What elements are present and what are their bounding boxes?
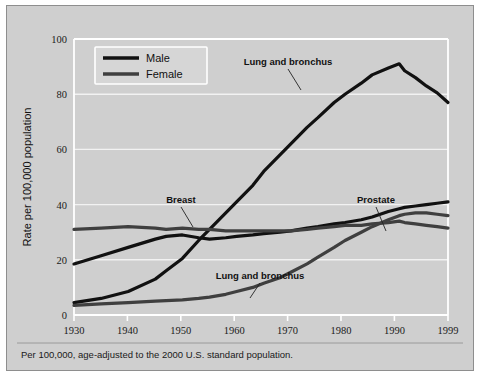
x-tick-label: 1950: [170, 325, 191, 336]
legend: Male Female: [95, 47, 207, 84]
y-tick-label: 20: [57, 255, 68, 266]
figure-root: 100 80 60 40 20 0 1930 1940 1950 1960 19…: [0, 0, 486, 382]
x-tick-label: 1970: [277, 325, 298, 336]
annotation-prostate: Prostate: [357, 194, 395, 205]
chart-svg: 100 80 60 40 20 0 1930 1940 1950 1960 19…: [7, 6, 473, 370]
x-tick-label: 1930: [64, 325, 85, 336]
y-axis-title: Rate per 100,000 population: [21, 108, 33, 247]
x-tick-label: 1999: [438, 325, 459, 336]
annotation-labels: Lung and bronchus Breast Prostate Lung a…: [166, 56, 395, 281]
series-line-male-lung-and-bronchus: [74, 64, 448, 303]
series-line-male-prostate: [74, 202, 448, 264]
legend-label-female: Female: [146, 68, 183, 80]
annotation-leaders: [181, 69, 386, 298]
x-tick-labels: 1930 1940 1950 1960 1970 1980 1990 1999: [64, 325, 459, 336]
legend-label-male: Male: [146, 52, 170, 64]
chart-card: 100 80 60 40 20 0 1930 1940 1950 1960 19…: [6, 5, 474, 371]
y-tick-labels: 100 80 60 40 20 0: [51, 34, 67, 321]
y-tick-label: 100: [51, 34, 67, 45]
footnote: Per 100,000, age-adjusted to the 2000 U.…: [21, 349, 293, 360]
y-tick-label: 60: [57, 144, 68, 155]
x-tick-label: 1960: [224, 325, 245, 336]
x-tick-label: 1990: [384, 325, 405, 336]
x-tick-label: 1940: [117, 325, 138, 336]
series-line-female-breast: [74, 221, 448, 231]
y-tick-label: 40: [57, 200, 68, 211]
y-tick-label: 80: [57, 89, 68, 100]
annotation-breast: Breast: [166, 194, 196, 205]
annotation-lung-male: Lung and bronchus: [244, 56, 333, 67]
y-tick-label: 0: [62, 310, 67, 321]
annotation-lung-female: Lung and bronchus: [216, 270, 305, 281]
x-tick-label: 1980: [331, 325, 352, 336]
